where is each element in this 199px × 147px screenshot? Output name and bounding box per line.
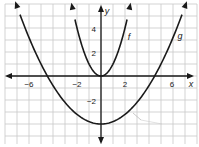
function-graph: −6 −2 2 6 4 2 −2 x y f g	[0, 0, 199, 147]
g-left-arrow-icon	[15, 1, 21, 9]
y-tick-label: 4	[92, 25, 97, 34]
g-right-arrow-icon	[182, 1, 188, 9]
x-tick-label: −6	[24, 80, 34, 89]
y-axis-label: y	[104, 6, 110, 16]
y-axis-up-arrow-icon	[98, 5, 104, 12]
y-axis-down-arrow-icon	[98, 137, 104, 144]
f-label: f	[128, 32, 132, 42]
g-label: g	[177, 31, 182, 41]
x-tick-label: 6	[170, 80, 175, 89]
faint-mark-2	[141, 120, 162, 124]
x-axis-left-arrow-icon	[5, 73, 12, 79]
x-tick-label: −2	[72, 80, 82, 89]
y-tick-label: −2	[87, 97, 97, 106]
x-axis-label: x	[188, 79, 194, 89]
x-tick-label: 2	[123, 80, 128, 89]
y-tick-label: 2	[92, 49, 97, 58]
